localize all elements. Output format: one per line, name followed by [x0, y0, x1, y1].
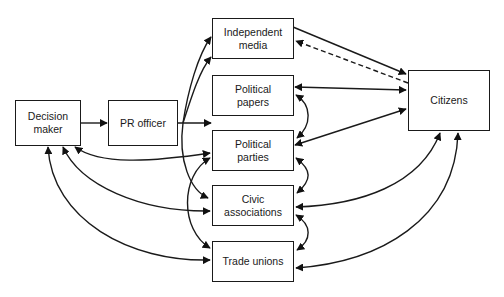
node-political-parties: Politicalparties	[212, 130, 294, 171]
edge-papers-citizens	[295, 87, 406, 90]
node-civic-associations: Civicassociations	[212, 185, 294, 226]
edge-decision-trade	[48, 147, 210, 260]
edge-civic-citizens	[296, 133, 440, 207]
edge-parties-trade	[188, 158, 211, 248]
node-decision-maker: Decisionmaker	[15, 100, 81, 146]
node-independent-media: Independentmedia	[212, 18, 294, 59]
node-political-papers: Politicalpapers	[212, 75, 294, 116]
node-trade-unions: Trade unions	[212, 241, 294, 282]
edge-papers-parties	[296, 95, 308, 138]
edge-citizens-to-media-dashed	[296, 41, 408, 83]
edge-media-to-citizens	[293, 27, 406, 74]
edge-parties-civic	[296, 158, 308, 193]
edge-civic-trade	[296, 215, 308, 250]
edge-decision-parties	[75, 147, 210, 160]
edge-trade-citizens	[296, 133, 458, 268]
node-pr-officer: PR officer	[108, 100, 178, 146]
edge-parties-citizens	[295, 109, 406, 145]
edge-pr-to-civic	[182, 123, 208, 198]
node-citizens: Citizens	[408, 70, 490, 131]
